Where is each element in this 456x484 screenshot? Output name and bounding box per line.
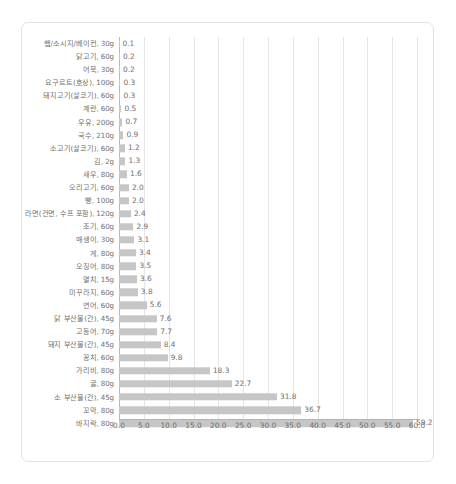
chart-bar-row: 오징어, 80g3.5	[22, 260, 433, 273]
bar-track: 0.3	[119, 89, 433, 102]
bar-track: 36.7	[119, 404, 433, 417]
bar-value-label: 0.9	[123, 132, 138, 139]
chart-bar-row: 돼지고기(살코기), 60g0.3	[22, 89, 433, 102]
category-label: 멸치, 15g	[22, 276, 119, 283]
bar-track: 1.2	[119, 142, 433, 155]
category-label: 오리고기, 60g	[22, 184, 119, 191]
bar-value-label: 5.6	[147, 302, 162, 309]
bar-value-label: 3.4	[136, 249, 151, 256]
bar[interactable]	[119, 406, 301, 413]
bar-value-label: 0.7	[122, 118, 137, 125]
bar-value-label: 0.2	[120, 66, 135, 73]
bar[interactable]	[119, 197, 129, 204]
bar-value-label: 1.6	[127, 171, 142, 178]
chart-bar-row: 돼지 부산물(간), 45g8.4	[22, 338, 433, 351]
bar-value-label: 2.4	[131, 210, 146, 217]
bar-value-label: 2.0	[129, 184, 144, 191]
category-label: 새우, 80g	[22, 171, 119, 178]
x-axis-tick-label: 25.0	[235, 422, 251, 429]
bar-track: 8.4	[119, 338, 433, 351]
bar-track: 2.9	[119, 220, 433, 233]
bar-value-label: 3.5	[136, 262, 151, 269]
chart-bar-row: 햄/소시지/베이컨, 30g0.1	[22, 37, 433, 50]
chart-bar-row: 굴, 80g22.7	[22, 377, 433, 390]
bar[interactable]	[119, 210, 131, 217]
bar-value-label: 1.3	[125, 158, 140, 165]
bar[interactable]	[119, 367, 210, 374]
category-label: 소고기(살코기), 60g	[22, 145, 119, 152]
category-label: 어묵, 30g	[22, 66, 119, 73]
bar-track: 2.4	[119, 207, 433, 220]
chart-bar-row: 요구르트(호상), 100g0.3	[22, 76, 433, 89]
chart-card: 햄/소시지/베이컨, 30g0.1닭고기, 60g0.2어묵, 30g0.2요구…	[21, 22, 434, 462]
bar-value-label: 9.8	[168, 354, 183, 361]
bar-track: 3.5	[119, 260, 433, 273]
bar-track: 0.2	[119, 63, 433, 76]
bar[interactable]	[119, 249, 136, 256]
bar-value-label: 0.3	[120, 79, 135, 86]
x-axis-tick-label: 55.0	[384, 422, 400, 429]
chart-bar-row: 우유, 200g0.7	[22, 116, 433, 129]
bar-track: 3.6	[119, 273, 433, 286]
bar[interactable]	[119, 328, 157, 335]
x-axis-tick-label: 40.0	[309, 422, 325, 429]
category-label: 햄/소시지/베이컨, 30g	[22, 40, 119, 47]
chart-bar-row: 국수, 210g0.9	[22, 129, 433, 142]
bar-value-label: 0.3	[120, 92, 135, 99]
chart-bar-row: 오리고기, 60g2.0	[22, 181, 433, 194]
chart-bar-row: 어묵, 30g0.2	[22, 63, 433, 76]
chart-bar-row: 닭고기, 60g0.2	[22, 50, 433, 63]
category-label: 요구르트(호상), 100g	[22, 79, 119, 86]
bar[interactable]	[119, 262, 136, 269]
bar-value-label: 31.8	[277, 393, 296, 400]
x-axis-tick-label: 60.0	[409, 422, 425, 429]
bar[interactable]	[119, 276, 137, 283]
bar-value-label: 3.8	[138, 289, 153, 296]
chart-bar-row: 고등어, 70g7.7	[22, 325, 433, 338]
bar[interactable]	[119, 302, 147, 309]
bar[interactable]	[119, 380, 232, 387]
bar-track: 0.1	[119, 37, 433, 50]
chart-bar-row: 미꾸라지, 60g3.8	[22, 286, 433, 299]
chart-bar-row: 게, 80g3.4	[22, 247, 433, 260]
category-label: 계란, 60g	[22, 105, 119, 112]
category-label: 국수, 210g	[22, 132, 119, 139]
bar-value-label: 3.6	[137, 276, 152, 283]
x-axis-ticks: 0.05.010.015.020.025.030.035.040.045.050…	[119, 422, 417, 438]
category-label: 매생이, 30g	[22, 236, 119, 243]
bar[interactable]	[119, 171, 127, 178]
bar[interactable]	[119, 236, 134, 243]
bar[interactable]	[119, 223, 133, 230]
bar[interactable]	[119, 393, 277, 400]
bar-value-label: 7.6	[157, 315, 172, 322]
bar-track: 0.7	[119, 116, 433, 129]
bar-track: 5.6	[119, 299, 433, 312]
bar[interactable]	[119, 315, 157, 322]
category-label: 김, 2g	[22, 158, 119, 165]
bar-value-label: 2.9	[133, 223, 148, 230]
category-label: 소 부산물(간), 45g	[22, 394, 119, 401]
chart-bar-row: 가리비, 80g18.3	[22, 364, 433, 377]
x-axis-tick-label: 5.0	[138, 422, 150, 429]
bar-track: 1.6	[119, 168, 433, 181]
bar-track: 3.8	[119, 286, 433, 299]
bar-track: 0.5	[119, 102, 433, 115]
category-label: 굴, 80g	[22, 380, 119, 387]
bar-track: 0.9	[119, 129, 433, 142]
bar-track: 2.0	[119, 181, 433, 194]
bar-track: 0.3	[119, 76, 433, 89]
bar[interactable]	[119, 341, 161, 348]
bar-value-label: 3.1	[134, 236, 149, 243]
category-label: 연어, 60g	[22, 302, 119, 309]
chart-bar-row: 계란, 60g0.5	[22, 102, 433, 115]
bar-track: 7.7	[119, 325, 433, 338]
chart-bar-row: 닭 부산물(간), 45g7.6	[22, 312, 433, 325]
bar[interactable]	[119, 184, 129, 191]
bar[interactable]	[119, 354, 168, 361]
category-label: 미꾸라지, 60g	[22, 289, 119, 296]
x-axis-tick-label: 30.0	[260, 422, 276, 429]
bar-track: 0.2	[119, 50, 433, 63]
bar[interactable]	[119, 289, 138, 296]
category-label: 우유, 200g	[22, 119, 119, 126]
chart-bar-row: 소 부산물(간), 45g31.8	[22, 391, 433, 404]
